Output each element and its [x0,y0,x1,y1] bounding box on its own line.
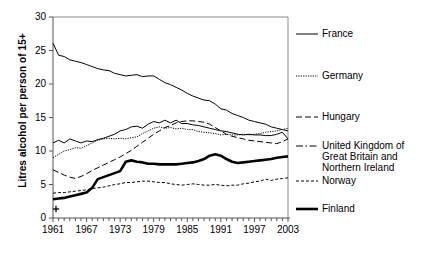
alcohol-consumption-line-chart: Litres alcohol per person of 15+ 0510152… [0,0,423,255]
series-line-united [53,120,288,143]
plot-area [0,0,423,255]
series-line-germany [53,127,288,158]
series-line-hungary [53,121,288,179]
series-line-finland [53,154,288,199]
series-line-france [53,43,288,131]
